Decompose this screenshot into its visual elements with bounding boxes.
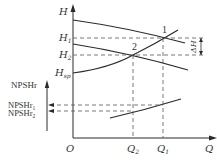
- h-axis-arrow-icon: [71, 4, 76, 12]
- q-axis-arrow-icon: [209, 136, 217, 141]
- q2-label: Q2: [127, 143, 139, 155]
- point-2-label: 2: [132, 41, 137, 52]
- point-1-label: 1: [162, 24, 167, 35]
- h2-label: H2: [58, 49, 72, 61]
- q-axis: Q O: [66, 136, 217, 155]
- delta-h-marker: ΔH: [189, 38, 203, 55]
- npshr-curve: [110, 99, 181, 118]
- npshr1-arrow-icon: [48, 103, 54, 107]
- q1-label: Q1: [157, 143, 169, 155]
- pump-curve-upper: [73, 20, 185, 43]
- delta-h-label: ΔH: [189, 39, 198, 54]
- npshr2-arrow-icon: [48, 109, 54, 113]
- delta-down-arrow-icon: [199, 51, 203, 55]
- npshr-axis-label: NPSHr: [11, 80, 37, 90]
- hsp-label: Hsp: [54, 67, 71, 80]
- system-curve: [73, 30, 178, 73]
- q-axis-label: Q: [205, 143, 213, 154]
- npshr2-label: NPSHr2: [8, 108, 36, 119]
- origin-label: O: [66, 143, 74, 154]
- delta-up-arrow-icon: [199, 38, 203, 42]
- h1-label: H1: [58, 32, 72, 44]
- npshr-axis-arrow-icon: [45, 80, 49, 88]
- h-axis-label: H: [58, 6, 68, 17]
- pump-characteristic-diagram: H Q O NPSHr H1 H2 Hsp NPSHr1 NPSHr2 Q2 Q…: [0, 0, 217, 160]
